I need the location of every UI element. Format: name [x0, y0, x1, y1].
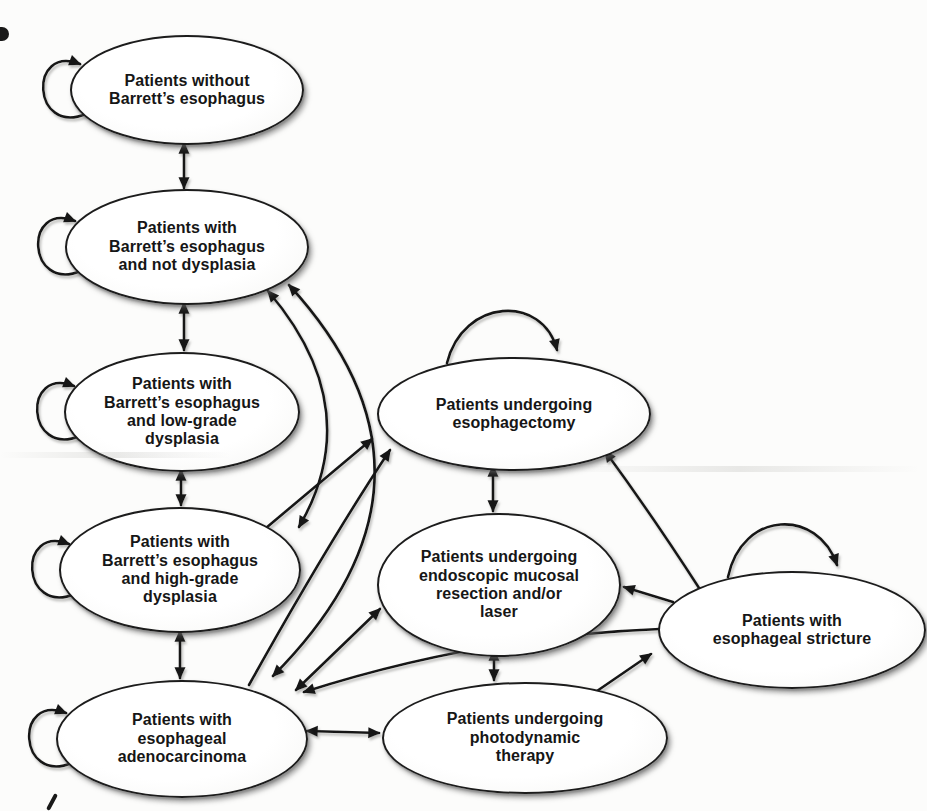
node-stricture: Patients withesophageal stricture — [658, 571, 926, 689]
self-loop-stricture — [728, 524, 837, 577]
node-label-line: dysplasia — [143, 588, 217, 606]
node-barretts-high-grade: Patients withBarrett’s esophagusand high… — [59, 507, 301, 633]
node-label-line: Barrett’s esophagus — [102, 552, 258, 570]
edge-stricture-to-emr-laser — [624, 587, 673, 602]
node-barretts-low-grade: Patients withBarrett’s esophagusand low-… — [64, 352, 300, 472]
node-label-line: Patients undergoing — [436, 396, 593, 414]
node-label-line: Patients with — [132, 711, 232, 729]
edge-stricture-to-esophagectomy — [605, 451, 701, 591]
node-label-line: photodynamic — [470, 729, 581, 747]
node-adenocarcinoma: Patients withesophagealadenocarcinoma — [56, 680, 308, 798]
self-loop-esophagectomy — [447, 311, 557, 363]
node-label-line: Barrett’s esophagus — [109, 90, 265, 108]
node-emr-laser: Patients undergoingendoscopic mucosalres… — [377, 513, 621, 657]
node-label-line: esophageal stricture — [713, 630, 872, 648]
node-label-line: esophageal — [137, 730, 226, 748]
node-label-line: adenocarcinoma — [118, 748, 247, 766]
node-label-line: Patients with — [137, 219, 237, 237]
node-label-line: Barrett’s esophagus — [104, 394, 260, 412]
node-no-barretts: Patients withoutBarrett’s esophagus — [70, 35, 304, 145]
node-label-line: and not dysplasia — [119, 256, 256, 274]
node-photodynamic: Patients undergoingphotodynamictherapy — [382, 682, 668, 794]
node-label-line: dysplasia — [145, 430, 219, 448]
node-label-line: therapy — [496, 747, 555, 765]
node-label-line: Patients undergoing — [421, 548, 578, 566]
node-label-line: resection and/or — [436, 585, 562, 603]
edge-adenocarcinoma--emr-laser — [296, 609, 380, 690]
edge-barretts-high-grade-to-esophagectomy — [266, 439, 372, 528]
node-label-line: laser — [480, 603, 518, 621]
node-label-line: esophagectomy — [452, 414, 575, 432]
node-esophagectomy: Patients undergoingesophagectomy — [377, 357, 651, 471]
node-label-line: and high-grade — [122, 570, 239, 588]
node-barretts-no-dysplasia: Patients withBarrett’s esophagusand not … — [65, 189, 309, 305]
node-label-line: Patients with — [130, 533, 230, 551]
node-label-line: and low-grade — [127, 412, 237, 430]
node-label-line: Patients undergoing — [447, 710, 604, 728]
node-label-line: Patients with — [742, 612, 842, 630]
node-label-line: Patients without — [124, 72, 249, 90]
node-label-line: endoscopic mucosal — [419, 567, 579, 585]
edge-photodynamic-to-stricture — [597, 654, 651, 691]
node-label-line: Barrett’s esophagus — [109, 238, 265, 256]
edge-adenocarcinoma--photodynamic — [307, 731, 379, 733]
node-label-line: Patients with — [132, 375, 232, 393]
